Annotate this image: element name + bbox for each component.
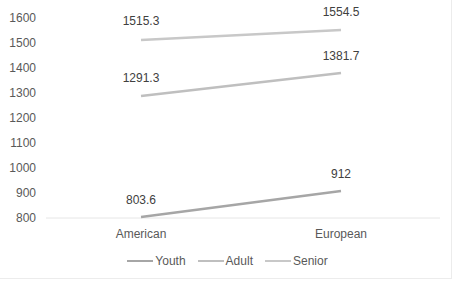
legend-item-senior[interactable]: Senior: [265, 254, 328, 268]
data-label: 803.6: [126, 193, 156, 207]
legend-label: Youth: [155, 254, 185, 268]
y-axis: 1600 1500 1400 1300 1200 1100 1000 900 8…: [9, 11, 36, 225]
legend-item-youth[interactable]: Youth: [127, 254, 185, 268]
y-tick: 1200: [9, 111, 36, 125]
legend-item-adult[interactable]: Adult: [198, 254, 253, 268]
data-label: 1515.3: [123, 14, 160, 28]
legend-line-icon: [127, 260, 153, 262]
series-line-adult: [141, 73, 341, 96]
line-chart: 1600 1500 1400 1300 1200 1100 1000 900 8…: [0, 0, 455, 284]
y-tick: 1300: [9, 86, 36, 100]
legend-line-icon: [265, 260, 291, 262]
y-tick: 800: [16, 211, 36, 225]
data-label: 1381.7: [323, 49, 360, 63]
y-tick: 1500: [9, 36, 36, 50]
series-line-youth: [141, 191, 341, 217]
data-label: 1554.5: [323, 5, 360, 19]
series-line-senior: [141, 30, 341, 40]
x-category-american: American: [116, 227, 167, 241]
y-tick: 1000: [9, 161, 36, 175]
chart-legend: Youth Adult Senior: [0, 254, 455, 268]
y-tick: 1400: [9, 61, 36, 75]
y-tick: 1600: [9, 11, 36, 25]
x-category-european: European: [315, 227, 367, 241]
data-label: 912: [331, 167, 351, 181]
legend-label: Senior: [293, 254, 328, 268]
legend-line-icon: [198, 260, 224, 262]
y-tick: 1100: [10, 136, 36, 150]
data-label: 1291.3: [123, 71, 160, 85]
legend-label: Adult: [226, 254, 253, 268]
y-tick: 900: [16, 186, 36, 200]
